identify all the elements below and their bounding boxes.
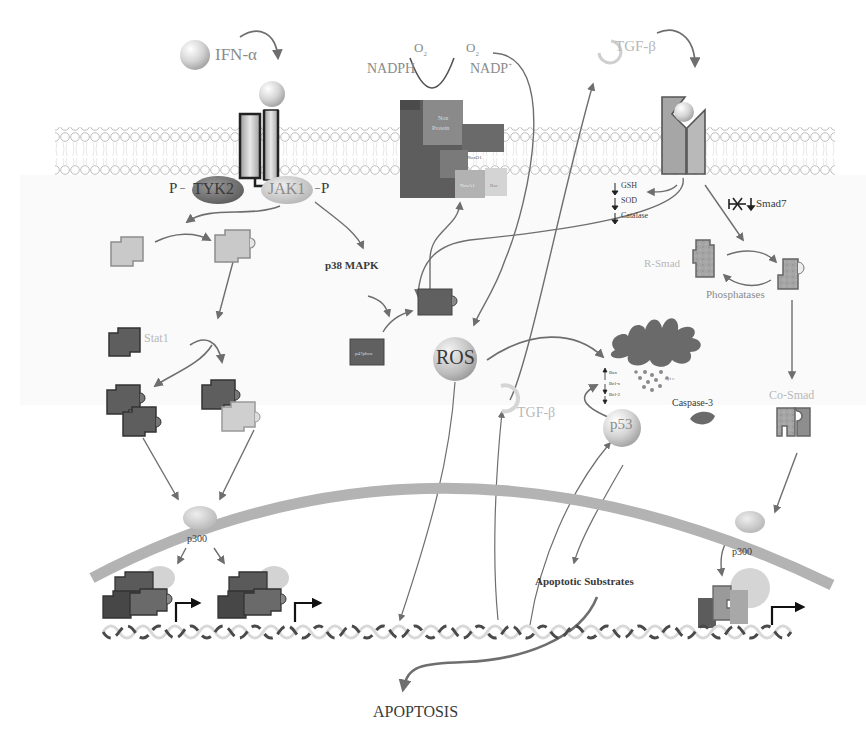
phospho-left-label: P	[169, 180, 177, 197]
catalase-label: Catalase	[621, 211, 648, 220]
p300-left-oval	[183, 506, 217, 530]
gsh-label: GSH	[621, 181, 637, 190]
gene-complex-left-1	[103, 566, 175, 618]
sod-label: SOD	[621, 196, 637, 205]
smad7-label: Smad7	[756, 197, 787, 209]
jak1-label: JAK1	[268, 180, 305, 198]
cyt-c-label: cyt c	[665, 376, 675, 381]
bcl-2-label: Bcl-2	[609, 392, 620, 397]
svg-text:p47phox: p47phox	[355, 351, 373, 356]
transcription-arrow-1	[176, 603, 196, 622]
bax-label: Bax	[609, 370, 617, 375]
phospho-left-dash: –	[180, 182, 185, 193]
nadph-oxidase-complex: Nox Protein NoxO1 NoxA1 Rac	[400, 100, 507, 198]
tgf-beta-receptor	[662, 97, 705, 174]
dna-helix	[103, 626, 791, 638]
nadp-label: NADP+	[470, 61, 512, 77]
transcription-arrow-2	[295, 603, 317, 622]
nadph-oxidation-curve	[410, 58, 454, 88]
caspase-3-shape	[690, 412, 715, 425]
tgf-beta-top-label: TGF-β	[615, 38, 656, 55]
o2-right-label: O2	[466, 40, 479, 58]
co-smad-label: Co-Smad	[769, 388, 814, 403]
p300-left-label: p300	[187, 533, 207, 544]
tyk2-label: TYK2	[193, 180, 234, 198]
phosphatases-label: Phosphatases	[706, 288, 765, 300]
svg-text:Nox: Nox	[438, 115, 448, 121]
gene-complex-right	[698, 568, 770, 628]
o2-left-label: O2	[414, 40, 427, 58]
svg-text:Protein: Protein	[432, 125, 449, 131]
arrow-tgf-to-receptor	[657, 30, 695, 66]
stat1-label: Stat1	[144, 331, 169, 346]
svg-text:Rac: Rac	[490, 183, 499, 188]
phospho-right-dash: –	[315, 182, 320, 193]
ifn-bound-sphere	[259, 81, 285, 107]
svg-text:NoxA1: NoxA1	[460, 183, 475, 188]
phospho-right-label: P	[321, 180, 329, 197]
ros-label: ROS	[436, 346, 475, 369]
r-smad-shape	[693, 240, 714, 277]
p300-right-label: p300	[732, 546, 752, 557]
diagram-canvas: Nox Protein NoxO1 NoxA1 Rac	[0, 0, 866, 750]
ifn-alpha-sphere	[180, 40, 210, 70]
p300-right-oval	[735, 511, 765, 533]
p38-mapk-label: p38 MAPK	[325, 259, 378, 271]
p53-label: p53	[610, 416, 633, 433]
pathway-diagram: Nox Protein NoxO1 NoxA1 Rac	[0, 0, 866, 750]
r-smad-label: R-Smad	[644, 257, 680, 269]
caspase-3-label: Caspase-3	[672, 397, 713, 408]
nadph-label: NADPH	[367, 61, 415, 77]
bcl-x-label: Bcl-x	[609, 381, 620, 386]
gene-complex-left-2	[218, 566, 289, 618]
transcription-arrow-3	[772, 607, 800, 625]
svg-text:NoxO1: NoxO1	[467, 155, 482, 160]
tgf-beta-mid-label: TGF-β	[517, 405, 555, 421]
p47-active	[418, 289, 452, 315]
apoptotic-substrates-label: Apoptotic Substrates	[535, 575, 634, 587]
apoptosis-label: APOPTOSIS	[373, 703, 458, 721]
co-smad-complex	[777, 408, 810, 436]
ifn-alpha-label: IFN-α	[215, 45, 257, 65]
